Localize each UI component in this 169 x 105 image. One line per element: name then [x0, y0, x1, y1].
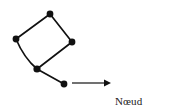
node-left	[13, 36, 20, 43]
annotation-label: Nœud terminal	[115, 66, 169, 105]
figure-container: Nœud terminal	[0, 0, 169, 105]
arrow-head-icon	[104, 80, 111, 87]
node-terminal	[61, 81, 68, 88]
annotation-label-line1: Nœud	[115, 94, 169, 105]
node-top	[47, 11, 54, 18]
edge-left-top	[16, 14, 50, 39]
annotation-arrow	[72, 80, 111, 87]
edge-top-right	[50, 14, 72, 42]
edge-right-junction	[37, 42, 72, 69]
edge-junction-terminal	[37, 69, 64, 84]
graph-edges	[16, 14, 72, 84]
graph-nodes	[13, 11, 76, 88]
node-right	[69, 39, 76, 46]
node-junction	[33, 65, 40, 72]
edge-left-junction-curved	[16, 39, 37, 69]
